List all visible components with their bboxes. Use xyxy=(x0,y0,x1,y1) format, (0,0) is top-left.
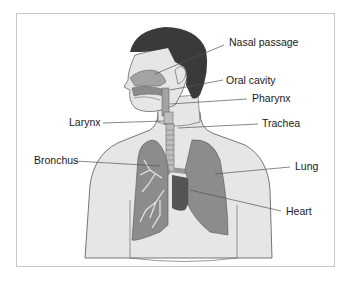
label-oral-cavity: Oral cavity xyxy=(226,74,276,86)
label-nasal-passage: Nasal passage xyxy=(229,36,298,48)
larynx-shape xyxy=(164,112,173,124)
label-trachea: Trachea xyxy=(262,117,300,129)
label-heart: Heart xyxy=(286,205,312,217)
heart-shape xyxy=(172,175,189,211)
label-pharynx: Pharynx xyxy=(252,92,291,104)
label-bronchus: Bronchus xyxy=(34,154,78,166)
label-lung: Lung xyxy=(295,160,318,172)
label-larynx: Larynx xyxy=(69,116,101,128)
